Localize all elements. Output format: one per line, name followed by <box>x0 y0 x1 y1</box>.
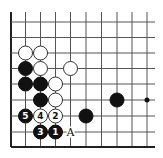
board-grid <box>11 12 155 147</box>
white-stone: 2 <box>49 109 63 123</box>
move-number: 4 <box>37 111 43 121</box>
white-stone: 4 <box>34 109 48 123</box>
point-label-a: A <box>66 126 76 139</box>
black-stone <box>19 77 33 91</box>
star-point <box>145 98 150 103</box>
white-stone <box>19 46 33 60</box>
white-stone <box>34 46 48 60</box>
move-number: 5 <box>22 111 28 121</box>
move-number: 3 <box>37 127 43 137</box>
white-stone <box>34 62 48 76</box>
move-number: 1 <box>52 127 58 137</box>
black-stone: 5 <box>19 109 33 123</box>
black-stone: 1 <box>49 125 63 139</box>
black-stone <box>79 109 93 123</box>
black-stone <box>34 77 48 91</box>
black-stone <box>110 93 124 107</box>
point-labels: A <box>66 126 76 139</box>
star-points <box>145 98 150 103</box>
go-board: 54231 A <box>0 0 163 158</box>
move-number: 2 <box>52 111 58 121</box>
black-stone: 3 <box>34 125 48 139</box>
white-stone <box>64 62 78 76</box>
white-stone <box>49 77 63 91</box>
white-stone <box>49 93 63 107</box>
black-stone <box>19 62 33 76</box>
black-stone <box>34 93 48 107</box>
